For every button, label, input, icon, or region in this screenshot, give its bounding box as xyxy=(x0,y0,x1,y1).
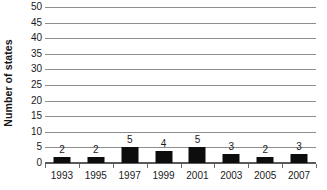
bar[interactable] xyxy=(121,147,138,163)
bar-group[interactable]: 2 xyxy=(45,7,79,163)
x-tick-label-1997: 1997 xyxy=(119,170,141,182)
y-tick-label-5: 5 xyxy=(17,142,42,152)
bar-group[interactable]: 3 xyxy=(214,7,248,163)
bar-value-label: 5 xyxy=(195,135,201,145)
x-tick-mark xyxy=(181,164,182,168)
bar-group[interactable]: 4 xyxy=(147,7,181,163)
y-tick-label-20: 20 xyxy=(17,96,42,106)
x-tick-label-2005: 2005 xyxy=(254,170,276,182)
bar-value-label: 4 xyxy=(161,139,167,149)
bar[interactable] xyxy=(291,154,308,163)
y-tick-label-25: 25 xyxy=(17,80,42,90)
x-axis-tick-labels: 19931995199719992001200320052007 xyxy=(45,170,316,186)
bar-group[interactable]: 2 xyxy=(248,7,282,163)
bar-chart: Number of states 05101520253035404550 22… xyxy=(0,0,327,190)
bar-value-label: 3 xyxy=(229,142,235,152)
bar-group[interactable]: 2 xyxy=(79,7,113,163)
y-tick-label-40: 40 xyxy=(17,33,42,43)
bar[interactable] xyxy=(223,154,240,163)
bar-value-label: 2 xyxy=(59,145,65,155)
bars: 22545323 xyxy=(45,7,316,163)
bar[interactable] xyxy=(155,151,172,163)
x-tick-label-1999: 1999 xyxy=(152,170,174,182)
bar-value-label: 5 xyxy=(127,135,133,145)
x-tick-label-2007: 2007 xyxy=(288,170,310,182)
x-tick-mark xyxy=(113,164,114,168)
x-tick-label-2003: 2003 xyxy=(220,170,242,182)
plot-area: 22545323 xyxy=(45,7,316,163)
x-tick-label-2001: 2001 xyxy=(186,170,208,182)
y-tick-label-35: 35 xyxy=(17,49,42,59)
y-tick-label-0: 0 xyxy=(17,158,42,168)
y-tick-label-30: 30 xyxy=(17,64,42,74)
y-axis-tick-labels: 05101520253035404550 xyxy=(17,0,42,170)
x-tick-mark xyxy=(147,164,148,168)
x-tick-label-1993: 1993 xyxy=(51,170,73,182)
x-tick-mark xyxy=(214,164,215,168)
y-axis-title: Number of states xyxy=(0,0,16,165)
y-tick-label-50: 50 xyxy=(17,2,42,12)
bar-value-label: 2 xyxy=(93,145,99,155)
bar-value-label: 3 xyxy=(296,142,302,152)
x-tick-mark xyxy=(79,164,80,168)
x-tick-mark xyxy=(45,164,46,168)
y-axis-title-text: Number of states xyxy=(2,39,14,126)
x-tick-mark xyxy=(316,164,317,168)
y-tick-label-10: 10 xyxy=(17,127,42,137)
y-tick-label-45: 45 xyxy=(17,18,42,28)
x-tick-mark xyxy=(248,164,249,168)
y-tick-label-15: 15 xyxy=(17,111,42,121)
x-tick-mark xyxy=(282,164,283,168)
x-tick-label-1995: 1995 xyxy=(85,170,107,182)
bar-group[interactable]: 5 xyxy=(113,7,147,163)
bar[interactable] xyxy=(189,147,206,163)
bar-group[interactable]: 5 xyxy=(181,7,215,163)
bar-group[interactable]: 3 xyxy=(282,7,316,163)
bar-value-label: 2 xyxy=(262,145,268,155)
